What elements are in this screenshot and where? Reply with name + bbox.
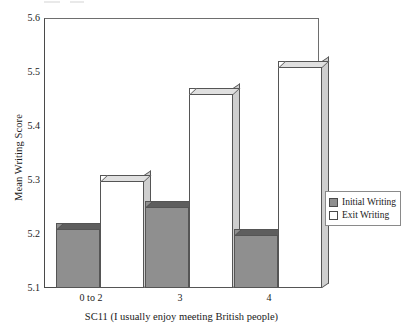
x-tick-label-0to2: 0 to 2 — [66, 292, 116, 303]
bar-top — [100, 175, 152, 182]
bar-initial-3 — [145, 201, 189, 288]
y-tick-label: 5.2 — [14, 229, 40, 239]
y-tick-label: 5.6 — [14, 13, 40, 23]
bar-top — [278, 61, 330, 68]
y-tick-label: 5.1 — [14, 283, 40, 293]
x-axis-title: SC11 (I usually enjoy meeting British pe… — [44, 311, 319, 322]
legend-swatch-icon — [329, 211, 338, 220]
bar-face — [278, 61, 322, 288]
legend-label: Initial Writing — [342, 196, 396, 208]
bar-top — [189, 88, 241, 95]
bar-face — [100, 175, 144, 288]
chart-legend: Initial Writing Exit Writing — [325, 191, 401, 226]
bar-exit-0to2 — [100, 175, 144, 288]
y-tick-label: 5.5 — [14, 67, 40, 77]
bar-side — [322, 56, 329, 288]
bar-exit-4 — [278, 61, 322, 288]
y-tick-label: 5.4 — [14, 121, 40, 131]
legend-item-initial-writing: Initial Writing — [329, 196, 396, 208]
bar-face — [145, 201, 189, 288]
plot-area — [44, 18, 319, 288]
x-tick-label-3: 3 — [155, 292, 205, 303]
y-axis-ticks: 5.6 5.5 5.4 5.3 5.2 5.1 — [14, 0, 40, 331]
legend-swatch-icon — [329, 198, 338, 207]
bar-initial-0to2 — [56, 223, 100, 288]
bar-chart: Mean Writing Score 5.6 5.5 5.4 5.3 5.2 5… — [0, 0, 414, 331]
bar-face — [234, 229, 278, 288]
bar-initial-4 — [234, 229, 278, 288]
y-tick-label: 5.3 — [14, 175, 40, 185]
scan-artifact — [70, 1, 84, 3]
legend-item-exit-writing: Exit Writing — [329, 209, 396, 221]
bar-exit-3 — [189, 88, 233, 288]
x-tick-label-4: 4 — [244, 292, 294, 303]
bar-face — [56, 223, 100, 288]
scan-artifact — [44, 1, 60, 3]
bar-face — [189, 88, 233, 288]
legend-label: Exit Writing — [342, 209, 389, 221]
